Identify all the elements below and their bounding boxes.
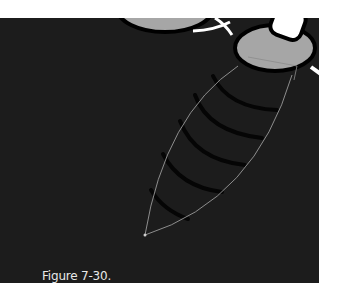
anchor-point [144,234,147,237]
figure-panel: Figure 7-30. [0,18,319,283]
dark-arc-stripes [151,76,277,219]
white-stroke-right [311,67,319,75]
figure-illustration [0,18,319,283]
figure-caption: Figure 7-30. [42,269,111,283]
